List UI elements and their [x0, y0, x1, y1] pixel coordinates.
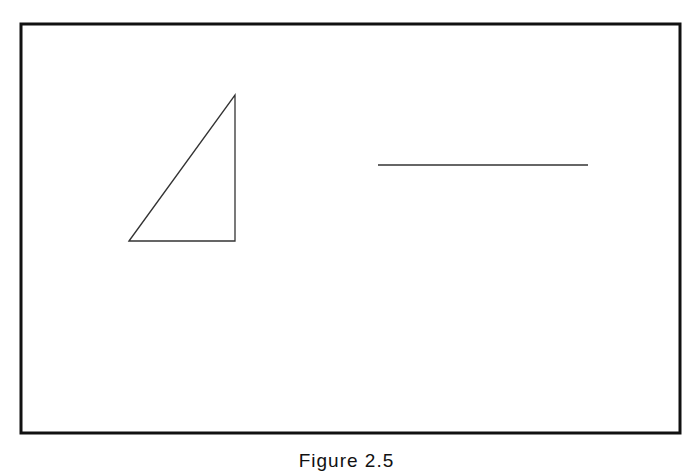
figure-caption: Figure 2.5	[0, 450, 693, 472]
right-triangle	[129, 95, 235, 241]
figure-frame	[21, 24, 680, 433]
